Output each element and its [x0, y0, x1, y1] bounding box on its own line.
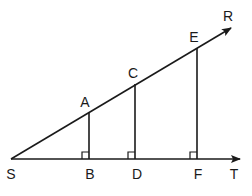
- point-label-d: D: [132, 167, 142, 181]
- point-label-c: C: [128, 66, 138, 80]
- point-label-b: B: [85, 167, 94, 181]
- point-label-s: S: [6, 167, 15, 181]
- point-label-f: F: [194, 167, 203, 181]
- point-label-e: E: [189, 30, 198, 44]
- ray-SR: [11, 28, 231, 159]
- point-label-r: R: [223, 9, 233, 23]
- right-angle-markers: [82, 152, 197, 159]
- point-label-t: T: [230, 167, 239, 181]
- rays-group: [11, 28, 240, 159]
- similar-triangles-diagram: [0, 0, 252, 196]
- right-angle-B: [82, 152, 89, 159]
- right-angle-F: [190, 152, 197, 159]
- right-angle-D: [128, 152, 135, 159]
- point-label-a: A: [80, 95, 89, 109]
